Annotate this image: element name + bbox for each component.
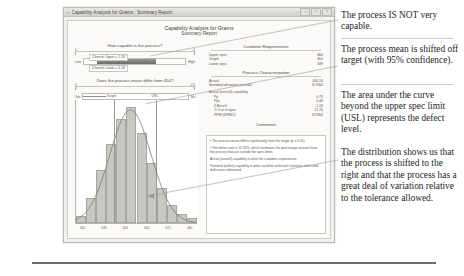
histogram-target-label: Target [107,94,116,98]
process-characterization-table: Actual460.24Standard deviation (overall)… [205,79,327,88]
capability-question: How capable is the process? [71,43,199,48]
stat-label: Lower spec [209,62,227,67]
capability-table: Pp0.73Ppk0.40Z.Bench1.18% Out of spec11.… [205,95,327,118]
window-title: Capability Analysis for Grams : Summary … [72,10,300,15]
zbench-lower-box: Z.bench Lower = 1.18 [89,65,128,72]
annotation-callout-distribution: The distribution shows us that the proce… [341,147,459,204]
process-characterization-heading: Process Characterization [205,70,327,75]
stat-value: 117564 [312,113,323,118]
stat-row: PPM (DPMO)117564 [205,113,327,118]
zbench-upper-box: Z.bench Upper = 1.18 [89,54,128,61]
stat-label: PPM (DPMO) [214,113,235,118]
annotation-divider [341,84,453,85]
screenshot-canvas: ─ Capability Analysis for Grams : Summar… [0,0,464,276]
comment-item: Actual (overall) capability is what the … [210,157,322,161]
divider [211,76,321,77]
capability-low-label: Low [75,60,81,64]
capability-high-label: High [188,60,195,64]
mean-tick-right: 0.5 [191,83,195,87]
window-titlebar[interactable]: ─ Capability Analysis for Grams : Summar… [64,8,334,17]
page-bottom-rule [32,262,436,264]
stat-row: Standard deviation (overall)8.2564 [205,83,327,88]
annotation-callout-defect-area: The area under the curve beyond the uppe… [341,90,459,136]
x-axis-tick: 456 [123,226,128,230]
x-axis-tick: 464 [144,226,149,230]
report-subtitle: Summary Report [68,31,330,37]
x-axis-tick: 472 [166,226,171,230]
comment-item: • The defect rate is 11.76%, which estim… [210,146,322,155]
report-left-column: How capable is the process? 0 6 Low High [68,40,202,238]
customer-requirements-heading: Customer Requirements [205,44,327,49]
comment-item: • The process mean differs significantly… [210,139,322,143]
close-button[interactable]: ✕ [322,8,332,16]
normal-curve [76,100,197,223]
window-controls[interactable]: – □ ✕ [300,8,332,16]
minimize-button[interactable]: – [300,8,310,16]
comments-heading: Comments [205,122,327,127]
histogram-usl-label: USL [152,94,159,98]
report-columns: How capable is the process? 0 6 Low High [68,40,330,238]
annotation-callout-mean-shift: The process mean is shifted off target (… [341,44,459,67]
capability-tick-right: 6 [193,48,195,52]
divider [211,50,321,51]
report-canvas: Capability Analysis for Grams Summary Re… [67,20,331,239]
mean-tick-left: 0 [75,83,77,87]
stat-value: 8.2564 [312,83,323,88]
maximize-button[interactable]: □ [311,8,321,16]
x-axis-tick: 448 [101,226,106,230]
histogram-x-axis: 440448456464472480 [75,226,197,233]
mean-question: Does the process mean differ from 454? [71,78,199,83]
capability-tick-left: 0 [75,48,77,52]
customer-requirements-table: Upper spec464Target454Lower spec439 [205,53,327,67]
x-axis-tick: 440 [80,226,85,230]
stat-label: Standard deviation (overall) [209,83,252,88]
window-menu-icon[interactable]: ─ [66,10,70,15]
minitab-report-window[interactable]: ─ Capability Analysis for Grams : Summar… [63,7,335,243]
histogram-plot [75,100,197,224]
stat-row: Lower spec439 [205,62,327,67]
annotation-callout-capability: The process IS NOT very capable. [341,10,459,33]
mean-gauge-scale: 0 0.5 [75,86,195,90]
report-right-column: Customer Requirements Upper spec464Targe… [202,40,330,238]
stat-value: 439 [317,62,323,67]
comment-item: Potential (within) capability is what co… [210,164,322,173]
comments-box: • The process mean differs significantly… [206,135,326,234]
capability-gauge: 0 6 Low High Z.bench Upper = 1.18 Z.benc… [71,49,199,75]
x-axis-tick: 480 [187,226,192,230]
annotation-divider [341,38,453,39]
